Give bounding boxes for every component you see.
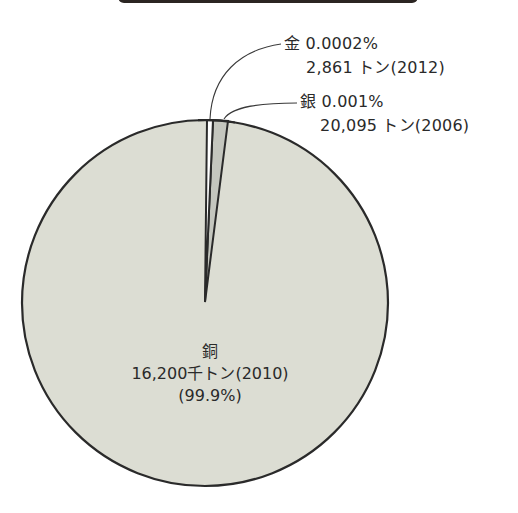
gold-label-amount: 2,861 トン(2012)	[306, 58, 445, 78]
gold-label-percent: 金 0.0002%	[284, 34, 378, 54]
slice-copper	[22, 120, 388, 486]
silver-leader-line	[224, 103, 297, 119]
copper-label-name: 銅	[90, 341, 330, 362]
silver-label-percent: 銀 0.001%	[300, 92, 384, 112]
copper-label-percent: (99.9%)	[90, 385, 330, 406]
copper-label-amount: 16,200千トン(2010)	[90, 363, 330, 384]
silver-label-amount: 20,095 トン(2006)	[320, 116, 469, 136]
